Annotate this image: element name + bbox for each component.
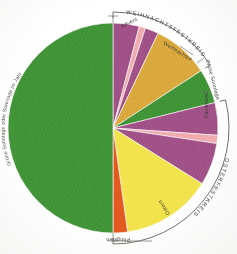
pie-slice[interactable] xyxy=(8,23,113,233)
liturgical-year-pie-chart: WEIHNACHTSFESTKREIS OSTERFESTKREIS Grüne… xyxy=(0,0,237,254)
label-fastenzeit: Fastenzeit xyxy=(203,91,209,118)
figure-canvas: WEIHNACHTSFESTKREIS OSTERFESTKREIS Grüne… xyxy=(0,0,237,254)
bracket-tick xyxy=(220,100,226,101)
leader-gruene xyxy=(197,58,204,63)
label-pfingsten: Pfingsten xyxy=(106,237,130,243)
